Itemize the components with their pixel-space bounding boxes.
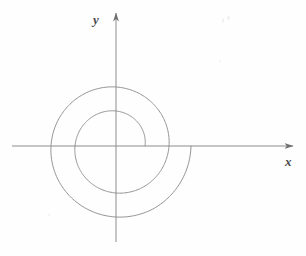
- archimedean-spiral-curve: [51, 87, 191, 217]
- scan-speck: [219, 60, 221, 62]
- y-axis-label: y: [93, 13, 99, 26]
- scan-speck: [48, 214, 50, 216]
- spiral-curve-group: [51, 87, 191, 217]
- spiral-figure: y x: [0, 0, 306, 256]
- scan-speck: [222, 18, 224, 23]
- x-axis-label: x: [285, 155, 292, 168]
- plot-canvas: [0, 0, 306, 256]
- scan-speck: [227, 16, 230, 20]
- axes-group: [12, 13, 293, 242]
